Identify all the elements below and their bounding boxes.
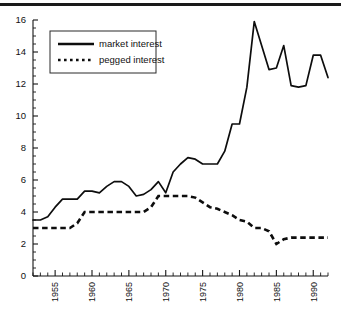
- legend-label: pegged interest: [99, 54, 165, 65]
- line-chart: 0246810121416 19551960196519701975198019…: [0, 0, 341, 328]
- y-tick-label: 2: [21, 238, 26, 249]
- x-tick-label: 1970: [161, 282, 171, 302]
- x-tick-label: 1985: [272, 282, 282, 302]
- x-tick-label: 1955: [50, 282, 60, 302]
- x-tick-label: 1965: [124, 282, 134, 302]
- y-tick-label: 16: [15, 14, 26, 25]
- x-tick-label: 1980: [235, 282, 245, 302]
- legend-label: market interest: [99, 38, 162, 49]
- x-tick-label: 1960: [87, 282, 97, 302]
- y-tick-label: 8: [21, 142, 26, 153]
- interest-rate-chart-figure: 0246810121416 19551960196519701975198019…: [0, 0, 341, 328]
- y-tick-label: 4: [21, 206, 26, 217]
- legend-box: [50, 31, 156, 73]
- y-tick-label: 10: [15, 110, 26, 121]
- y-tick-label: 12: [15, 78, 26, 89]
- y-tick-label: 0: [21, 270, 26, 281]
- x-axis: 19551960196519701975198019851990: [33, 270, 328, 302]
- x-tick-label: 1990: [309, 282, 319, 302]
- y-tick-label: 6: [21, 174, 26, 185]
- series-pegged-interest: [33, 196, 328, 244]
- y-axis: 0246810121416: [15, 14, 38, 281]
- y-tick-label: 14: [15, 46, 26, 57]
- x-tick-label: 1975: [198, 282, 208, 302]
- chart-legend: market interestpegged interest: [50, 31, 165, 73]
